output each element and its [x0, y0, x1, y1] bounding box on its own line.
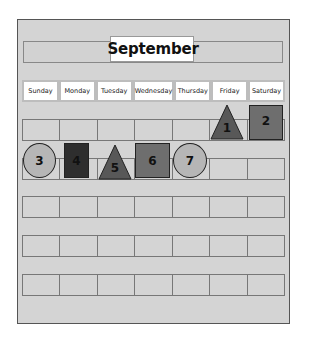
day-cell[interactable]	[173, 275, 210, 295]
day-cell[interactable]	[98, 197, 135, 217]
month-title: September	[107, 40, 198, 58]
weekday-saturday: Saturday	[248, 80, 285, 102]
day-cell[interactable]	[248, 197, 284, 217]
circle-piece-3[interactable]: 3	[23, 143, 56, 178]
rectangle-piece-4[interactable]: 4	[64, 143, 89, 178]
circle-piece-7[interactable]: 7	[173, 143, 207, 178]
day-cell[interactable]	[135, 236, 172, 256]
day-cell[interactable]	[60, 120, 97, 140]
weekday-sunday: Sunday	[22, 80, 59, 102]
week-row-4	[22, 235, 285, 257]
day-cell[interactable]	[23, 197, 60, 217]
day-cell[interactable]	[60, 236, 97, 256]
day-cell[interactable]	[248, 275, 284, 295]
weekday-thursday: Thursday	[174, 80, 211, 102]
week-row-1	[22, 119, 285, 141]
day-cell[interactable]	[248, 236, 284, 256]
day-cell[interactable]	[98, 275, 135, 295]
day-cell[interactable]	[210, 236, 247, 256]
day-cell[interactable]	[210, 197, 247, 217]
day-cell[interactable]	[173, 197, 210, 217]
day-cell[interactable]	[60, 197, 97, 217]
triangle-piece-1[interactable]: 1	[210, 104, 244, 140]
square-piece-6[interactable]: 6	[135, 143, 170, 178]
day-cell[interactable]	[135, 275, 172, 295]
triangle-piece-5[interactable]: 5	[98, 144, 132, 180]
day-cell[interactable]	[23, 120, 60, 140]
weekday-friday: Friday	[211, 80, 248, 102]
square-piece-2[interactable]: 2	[249, 105, 283, 140]
day-cell[interactable]	[98, 120, 135, 140]
week-row-3	[22, 196, 285, 218]
day-cell[interactable]	[98, 236, 135, 256]
day-cell[interactable]	[210, 275, 247, 295]
weekday-monday: Monday	[59, 80, 96, 102]
day-cell[interactable]	[60, 275, 97, 295]
week-row-5	[22, 274, 285, 296]
day-cell[interactable]	[135, 120, 172, 140]
day-cell[interactable]	[135, 197, 172, 217]
weekday-tuesday: Tuesday	[96, 80, 133, 102]
day-cell[interactable]	[173, 120, 210, 140]
month-title-card: September	[110, 36, 194, 62]
weekday-wednesday: Wednesday	[133, 80, 175, 102]
day-cell[interactable]	[23, 236, 60, 256]
day-cell[interactable]	[173, 236, 210, 256]
day-cell[interactable]	[248, 159, 284, 179]
day-cell[interactable]	[210, 159, 247, 179]
weekday-header: Sunday Monday Tuesday Wednesday Thursday…	[22, 80, 285, 102]
day-cell[interactable]	[23, 275, 60, 295]
